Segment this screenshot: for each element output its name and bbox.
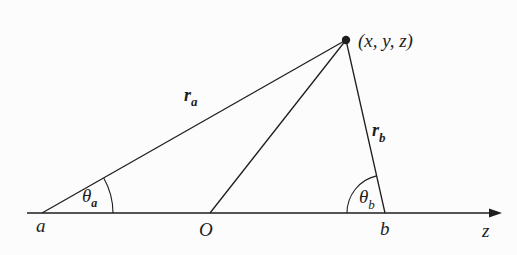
field-point-label: (x, y, z) — [358, 30, 413, 52]
field-point-dot — [342, 36, 350, 44]
diagram-canvas: (x, y, z) ra rb θa θb a O b z — [0, 0, 517, 255]
r-b-label: rb — [372, 120, 386, 145]
theta-a-label: θa — [82, 185, 97, 210]
r-a-label: ra — [184, 85, 198, 109]
point-a-label: a — [36, 215, 46, 236]
origin-label: O — [199, 219, 213, 240]
line-origin-to-point — [210, 40, 346, 213]
theta-b-label: θb — [359, 186, 375, 212]
z-axis-label: z — [481, 220, 490, 241]
diagram-svg: (x, y, z) ra rb θa θb a O b z — [0, 0, 517, 255]
z-axis-arrowhead — [489, 209, 502, 218]
angle-arc-theta-a — [104, 178, 113, 213]
point-b-label: b — [380, 218, 390, 239]
